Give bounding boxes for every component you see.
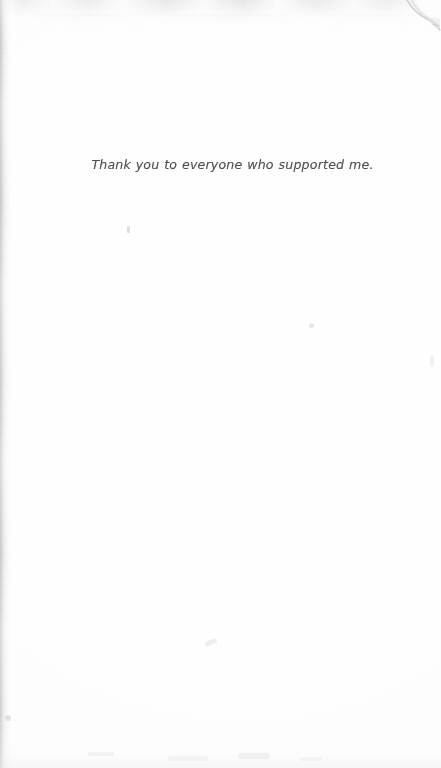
scan-speck	[300, 757, 322, 761]
top-scan-smudge-band-secondary	[0, 14, 441, 26]
scan-speck	[88, 752, 114, 756]
scan-speck	[168, 756, 208, 761]
scan-speck	[127, 226, 130, 233]
scan-speck	[430, 355, 434, 367]
scan-speck	[5, 715, 11, 721]
scan-speck	[238, 753, 270, 759]
scanned-page: Thank you to everyone who supported me.	[0, 0, 441, 768]
scan-speck	[205, 638, 218, 647]
bottom-scan-wash	[0, 742, 441, 768]
paper-surface	[0, 0, 441, 768]
page-curl-icon	[403, 0, 441, 32]
top-scan-smudge-band	[0, 0, 441, 17]
scan-noise-veil	[0, 0, 441, 768]
dedication-text: Thank you to everyone who supported me.	[0, 156, 441, 173]
scan-speck	[309, 323, 314, 328]
left-edge-scan-shadow	[0, 0, 11, 768]
